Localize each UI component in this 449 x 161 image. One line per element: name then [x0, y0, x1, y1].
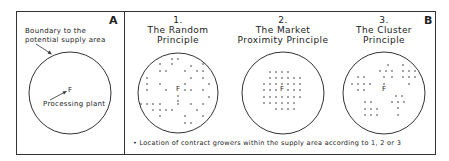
random-dots	[140, 58, 210, 124]
principle-1-title: The Random	[138, 25, 218, 35]
boundary-label-line1: Boundary to the	[25, 27, 86, 36]
principle-3-title: The Cluster	[344, 25, 424, 35]
principle-2-title: The Market	[233, 25, 333, 35]
principle-2-subtitle: Proximity Principle	[233, 35, 333, 45]
principle-2-heading: 2. The Market Proximity Principle	[233, 15, 333, 45]
plant-label: Processing plant	[43, 100, 105, 109]
plant-marker: F	[68, 86, 72, 95]
panel-b-letter: B	[424, 14, 432, 27]
legend-text: • Location of contract growers within th…	[133, 139, 401, 148]
boundary-arrow	[36, 44, 50, 53]
panel-a-letter: A	[109, 14, 118, 27]
boundary-label-line2: potential supply area	[25, 36, 106, 45]
principle-3-number: 3.	[344, 15, 424, 25]
principle-2-number: 2.	[233, 15, 333, 25]
principle-3-subtitle: Principle	[344, 35, 424, 45]
random-plant-marker: F	[176, 85, 180, 94]
principle-1-subtitle: Principle	[138, 35, 218, 45]
principle-1-heading: 1. The Random Principle	[138, 15, 218, 45]
principle-1-number: 1.	[138, 15, 218, 25]
plant-arrow	[50, 92, 65, 100]
principle-3-heading: 3. The Cluster Principle	[344, 15, 424, 45]
supply-area-diagram: A Boundary to the potential supply area …	[0, 0, 449, 161]
cluster-plant-marker: F	[382, 85, 386, 94]
market-plant-marker: F	[280, 85, 284, 94]
